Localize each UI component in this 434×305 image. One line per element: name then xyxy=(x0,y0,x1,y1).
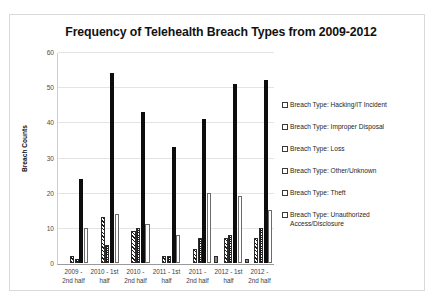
chart-title: Frequency of Telehealth Breach Types fro… xyxy=(10,25,424,39)
bar xyxy=(245,259,249,263)
y-tick-label: 0 xyxy=(50,260,54,267)
bar xyxy=(233,84,237,263)
legend-item[interactable]: Breach Type: Other/Unknown xyxy=(282,167,422,176)
bar xyxy=(136,228,140,263)
bar xyxy=(141,112,145,263)
bar xyxy=(172,147,176,263)
legend-label: Breach Type: Unauthorized Access/Disclos… xyxy=(290,211,422,228)
bar xyxy=(101,217,105,263)
x-axis-label: 2009 -2nd half xyxy=(58,267,89,285)
y-tick-label: 50 xyxy=(47,84,54,91)
bar-group xyxy=(59,53,90,263)
legend-swatch-icon xyxy=(282,190,288,196)
x-axis-label: 2011 - 1sthalf xyxy=(151,267,182,285)
legend-swatch-icon xyxy=(282,212,288,218)
legend-label: Breach Type: Theft xyxy=(290,189,345,198)
bar xyxy=(214,256,218,263)
bar-group xyxy=(90,53,121,263)
chart-legend: Breach Type: Hacking/IT IncidentBreach T… xyxy=(282,101,422,242)
legend-item[interactable]: Breach Type: Theft xyxy=(282,189,422,198)
y-tick-label: 10 xyxy=(47,224,54,231)
bar xyxy=(198,238,202,263)
legend-label: Breach Type: Improper Disposal xyxy=(290,123,384,132)
bar-groups xyxy=(59,53,274,263)
bar-group xyxy=(213,53,244,263)
y-tick-label: 40 xyxy=(47,119,54,126)
bar xyxy=(105,245,109,263)
bar-group xyxy=(243,53,274,263)
x-axis-label: 2012 -2nd half xyxy=(244,267,275,285)
legend-label: Breach Type: Hacking/IT Incident xyxy=(290,101,387,110)
bar xyxy=(202,119,206,263)
legend-item[interactable]: Breach Type: Loss xyxy=(282,145,422,154)
chart-container: Frequency of Telehealth Breach Types fro… xyxy=(9,14,425,291)
y-tick-label: 20 xyxy=(47,189,54,196)
bar xyxy=(228,235,232,263)
bar xyxy=(131,231,135,263)
bar xyxy=(167,256,171,263)
y-axis-title: Breach Counts xyxy=(21,109,28,189)
bar xyxy=(238,196,242,263)
x-axis-label: 2011 -2nd half xyxy=(182,267,213,285)
bar xyxy=(193,249,197,263)
legend-swatch-icon xyxy=(282,146,288,152)
bar xyxy=(70,256,74,263)
y-tick-label: 60 xyxy=(47,49,54,56)
x-axis-label: 2010 -2nd half xyxy=(120,267,151,285)
bar xyxy=(268,210,272,263)
bar xyxy=(224,238,228,263)
legend-swatch-icon xyxy=(282,102,288,108)
legend-item[interactable]: Breach Type: Improper Disposal xyxy=(282,123,422,132)
bar-group xyxy=(182,53,213,263)
bar xyxy=(84,228,88,263)
bar xyxy=(79,179,83,263)
bar-group xyxy=(151,53,182,263)
legend-swatch-icon xyxy=(282,168,288,174)
bar xyxy=(110,73,114,263)
gridline: 0 xyxy=(58,263,274,264)
bar xyxy=(254,238,258,263)
legend-label: Breach Type: Loss xyxy=(290,145,345,154)
bar-group xyxy=(120,53,151,263)
bar xyxy=(162,256,166,263)
bar xyxy=(207,193,211,263)
x-axis-label: 2010 - 1sthalf xyxy=(89,267,120,285)
legend-item[interactable]: Breach Type: Hacking/IT Incident xyxy=(282,101,422,110)
bar xyxy=(259,228,263,263)
bar xyxy=(176,235,180,263)
legend-swatch-icon xyxy=(282,124,288,130)
bar xyxy=(115,214,119,263)
y-tick-label: 30 xyxy=(47,154,54,161)
bar xyxy=(145,224,149,263)
plot-area: 0102030405060 xyxy=(57,53,274,265)
x-axis-labels: 2009 -2nd half2010 - 1sthalf2010 -2nd ha… xyxy=(58,267,275,285)
bar xyxy=(75,259,79,263)
legend-label: Breach Type: Other/Unknown xyxy=(290,167,376,176)
x-axis-label: 2012 - 1sthalf xyxy=(213,267,244,285)
legend-item[interactable]: Breach Type: Unauthorized Access/Disclos… xyxy=(282,211,422,228)
bar xyxy=(264,80,268,263)
